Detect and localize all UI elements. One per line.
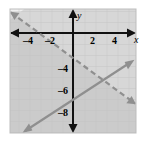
y-tick-label-neg8: –8 xyxy=(58,108,68,118)
x-tick-label-neg2: –2 xyxy=(45,36,55,46)
x-tick-label-pos4: 4 xyxy=(112,36,117,46)
y-tick-label-neg6: –6 xyxy=(58,86,68,96)
x-axis-label: x xyxy=(134,35,138,45)
y-axis-label: y xyxy=(77,11,81,21)
x-tick-label-neg4: –4 xyxy=(23,36,33,46)
y-tick-label-neg4: –4 xyxy=(58,64,68,74)
graph-figure: –4 –2 2 4 –4 –6 –8 y x xyxy=(0,0,144,146)
coordinate-plane-svg xyxy=(0,0,144,146)
x-tick-label-pos2: 2 xyxy=(90,36,95,46)
